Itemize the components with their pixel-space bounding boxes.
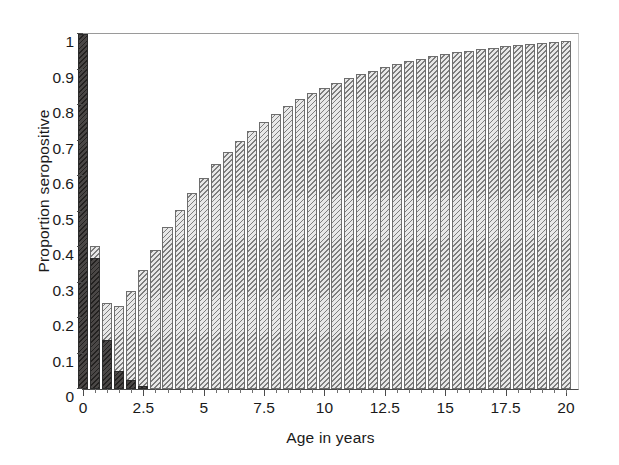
x-minor-tick	[252, 389, 253, 393]
bar-hatched-fill	[356, 74, 366, 389]
bar	[428, 34, 438, 389]
bar-dark-overlay	[90, 258, 100, 389]
bar-hatched-fill	[525, 44, 535, 389]
x-minor-tick	[542, 389, 543, 393]
x-minor-tick	[409, 389, 410, 393]
x-axis-label: Age in years	[82, 429, 579, 447]
x-minor-tick	[131, 389, 132, 393]
bar-hatched-fill	[561, 41, 571, 389]
bar-hatched-fill	[138, 270, 148, 389]
bar-hatched-fill	[175, 210, 185, 389]
bar	[271, 34, 281, 389]
bar	[561, 34, 571, 389]
bar-hatched-fill	[247, 131, 257, 389]
bar	[440, 34, 450, 389]
bar-hatched-fill	[380, 67, 390, 389]
bar	[211, 34, 221, 389]
bar-hatched-fill	[211, 164, 221, 389]
bar	[283, 34, 293, 389]
x-tick	[264, 389, 265, 396]
bar-hatched-fill	[500, 46, 510, 389]
x-minor-tick	[240, 389, 241, 393]
x-minor-tick	[228, 389, 229, 393]
bar-hatched-fill	[452, 52, 462, 389]
x-tick	[445, 389, 446, 396]
bar-hatched-fill	[199, 178, 209, 389]
y-tick	[77, 317, 83, 318]
y-tick	[77, 69, 83, 70]
y-tick	[77, 282, 83, 283]
x-minor-tick	[95, 389, 96, 393]
bar	[295, 34, 305, 389]
x-tick-label: 5	[199, 400, 208, 416]
x-minor-tick	[530, 389, 531, 393]
bar	[549, 34, 559, 389]
x-tick	[83, 389, 84, 396]
x-minor-tick	[300, 389, 301, 393]
bar-hatched-fill	[187, 193, 197, 389]
x-minor-tick	[337, 389, 338, 393]
bar-dark-overlay	[102, 340, 112, 389]
x-minor-tick	[469, 389, 470, 393]
plot-area: 00.10.20.30.40.50.60.70.80.9102.557.5101…	[82, 33, 579, 390]
bar	[307, 34, 317, 389]
bar-hatched-fill	[404, 61, 414, 389]
bar-dark-overlay	[78, 34, 88, 389]
y-tick	[77, 104, 83, 105]
x-minor-tick	[168, 389, 169, 393]
bar-hatched-fill	[476, 49, 486, 389]
bar-hatched-fill	[368, 71, 378, 389]
x-minor-tick	[192, 389, 193, 393]
bar	[404, 34, 414, 389]
x-tick	[324, 389, 325, 396]
bar	[319, 34, 329, 389]
x-minor-tick	[288, 389, 289, 393]
bar	[488, 34, 498, 389]
x-minor-tick	[216, 389, 217, 393]
bar-hatched-fill	[283, 106, 293, 389]
x-minor-tick	[457, 389, 458, 393]
bar-hatched-fill	[150, 250, 160, 389]
bar-hatched-fill	[162, 227, 172, 389]
x-tick-label: 0	[79, 400, 88, 416]
x-tick-label: 10	[316, 400, 333, 416]
bar-dark-overlay	[126, 380, 136, 389]
bar	[476, 34, 486, 389]
bar	[162, 34, 172, 389]
x-tick-label: 7.5	[253, 400, 275, 416]
x-tick-label: 2.5	[133, 400, 155, 416]
bar	[187, 34, 197, 389]
x-tick	[143, 389, 144, 396]
y-tick	[77, 353, 83, 354]
x-minor-tick	[180, 389, 181, 393]
bar-hatched-fill	[295, 99, 305, 389]
bar-hatched-fill	[271, 114, 281, 389]
x-minor-tick	[373, 389, 374, 393]
x-minor-tick	[107, 389, 108, 393]
bar-hatched-fill	[344, 78, 354, 389]
x-minor-tick	[554, 389, 555, 393]
bar-hatched-fill	[331, 83, 341, 389]
bar	[513, 34, 523, 389]
bar-hatched-fill	[319, 88, 329, 389]
y-tick	[77, 246, 83, 247]
bar	[199, 34, 209, 389]
bar	[452, 34, 462, 389]
bar	[102, 34, 112, 389]
x-minor-tick	[518, 389, 519, 393]
x-minor-tick	[421, 389, 422, 393]
bar-dark-overlay	[114, 371, 124, 389]
bar	[78, 34, 88, 389]
bar	[500, 34, 510, 389]
bar	[259, 34, 269, 389]
y-axis-label: Proportion seropositive	[35, 61, 53, 321]
bar	[416, 34, 426, 389]
bar-hatched-fill	[464, 51, 474, 389]
bar-hatched-fill	[549, 42, 559, 389]
bar-hatched-fill	[307, 93, 317, 389]
y-tick	[77, 140, 83, 141]
y-tick	[77, 175, 83, 176]
bar	[126, 34, 136, 389]
bar-hatched-fill	[259, 122, 269, 389]
x-minor-tick	[312, 389, 313, 393]
